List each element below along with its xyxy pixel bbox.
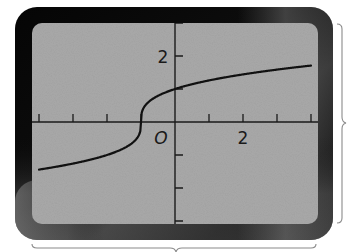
graphing-calculator-display: O 2 2 (0, 0, 351, 252)
bottom-brace (32, 244, 316, 252)
origin-label: O (154, 128, 167, 148)
x-tick-label-2: 2 (238, 128, 249, 148)
y-tick-label-2: 2 (158, 47, 169, 67)
right-brace (337, 24, 346, 223)
